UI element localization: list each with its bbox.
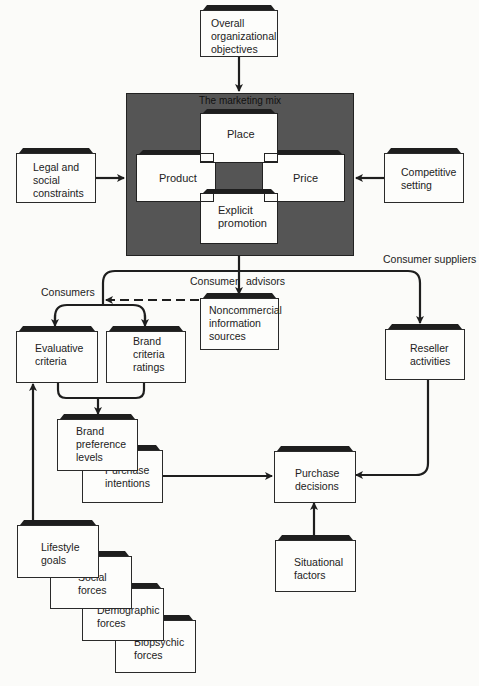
node-legal-social-constraints: Legal and social constraints: [16, 153, 96, 203]
node-label-line: sources: [209, 330, 282, 343]
node-label-line: Lifestyle: [41, 541, 80, 554]
node-label-line: Overall: [211, 17, 276, 30]
node-label-line: Reseller: [410, 342, 450, 355]
node-label-line: Competitive: [401, 166, 456, 179]
mix-place-label: Place: [227, 128, 255, 141]
node-label-line: Noncommercial: [209, 304, 282, 317]
node-label-line: Evaluative: [35, 342, 83, 355]
node-lifestyle-goals: Lifestyle goals: [17, 525, 99, 578]
node-overall-objectives: Overall organizational objectives: [200, 10, 278, 57]
node-label-line: Situational: [294, 556, 343, 569]
node-label-line: criteria: [35, 355, 83, 368]
node-label-line: Brand: [133, 335, 165, 348]
node-reseller-activities: Reseller activities: [385, 329, 465, 380]
node-label-line: Legal and: [33, 161, 84, 174]
node-label-line: factors: [294, 569, 343, 582]
node-label-line: forces: [134, 649, 184, 662]
overlap-corner: [200, 193, 214, 202]
node-label-line: forces: [78, 584, 107, 597]
node-evaluative-criteria: Evaluative criteria: [16, 331, 98, 383]
node-noncommercial-information-sources: Noncommercial information sources: [200, 298, 279, 350]
node-label-line: activities: [410, 355, 450, 368]
node-competitive-setting: Competitive setting: [384, 153, 464, 203]
node-label-line: preference: [76, 438, 126, 451]
label-consumer: Consumer: [190, 275, 238, 287]
mix-product-label: Product: [159, 172, 197, 185]
node-label-line: goals: [41, 554, 80, 567]
node-label-line: intentions: [105, 477, 150, 490]
marketing-mix-title: The marketing mix: [127, 95, 353, 106]
label-consumer-suppliers: Consumer suppliers: [383, 253, 476, 265]
label-advisors: advisors: [246, 275, 285, 287]
node-label-line: Explicit: [218, 204, 267, 217]
node-label-line: constraints: [33, 187, 84, 200]
node-label-line: objectives: [211, 43, 276, 56]
node-label-line: decisions: [295, 480, 339, 493]
node-label-line: levels: [76, 451, 126, 464]
node-label-line: ratings: [133, 361, 165, 374]
label-consumers: Consumers: [41, 286, 95, 298]
node-label-line: forces: [97, 617, 159, 630]
node-label-line: Brand: [76, 425, 126, 438]
node-purchase-decisions: Purchase decisions: [274, 451, 356, 503]
node-brand-criteria-ratings: Brand criteria ratings: [106, 331, 186, 383]
node-label-line: social: [33, 174, 84, 187]
node-label-line: setting: [401, 179, 456, 192]
node-label-line: Purchase: [295, 467, 339, 480]
overlap-corner: [264, 153, 278, 162]
node-situational-factors: Situational factors: [275, 540, 356, 592]
node-label-line: promotion: [218, 217, 267, 230]
node-label-line: organizational: [211, 30, 276, 43]
overlap-corner: [264, 193, 278, 202]
node-brand-preference-levels: Brand preference levels: [57, 419, 138, 471]
node-label-line: criteria: [133, 348, 165, 361]
mix-price-label: Price: [293, 172, 318, 185]
node-label-line: information: [209, 317, 282, 330]
overlap-corner: [200, 153, 214, 162]
